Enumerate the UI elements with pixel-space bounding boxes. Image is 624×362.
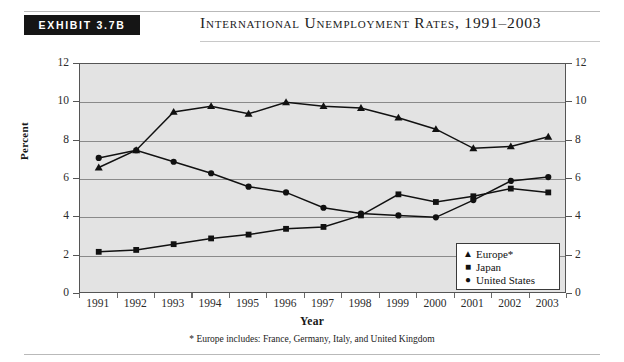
y-tick-label-left-4: 4: [47, 209, 69, 221]
data-point: [283, 189, 289, 195]
data-point: [96, 155, 102, 161]
legend-item-europe: ▲ Europe*: [462, 247, 554, 260]
exhibit-title: International Unemployment Rates, 1991–2…: [200, 14, 541, 32]
x-tick-mark-1997: [304, 293, 305, 298]
x-tick-mark-1992: [117, 293, 118, 298]
y-tick-label-right-10: 10: [575, 94, 597, 106]
data-point: [320, 205, 326, 211]
y-tick-label-left-2: 2: [47, 248, 69, 260]
x-tick-label-1995: 1995: [228, 297, 268, 309]
x-tick-label-1999: 1999: [377, 297, 417, 309]
data-point: [433, 199, 439, 205]
y-tick-label-right-6: 6: [575, 171, 597, 183]
y-tick-label-left-8: 8: [47, 133, 69, 145]
y-tick-label-right-4: 4: [575, 209, 597, 221]
data-point: [171, 159, 177, 165]
y-tick-mark-right-2: [566, 255, 572, 256]
circle-marker-icon: ●: [462, 275, 474, 285]
series-line: [99, 102, 549, 167]
y-tick-mark-left-6: [73, 178, 79, 179]
y-tick-label-left-12: 12: [47, 56, 69, 68]
x-tick-label-1991: 1991: [78, 297, 118, 309]
y-tick-mark-left-8: [73, 140, 79, 141]
chart-footnote: * Europe includes: France, Germany, Ital…: [0, 334, 624, 344]
x-tick-mark-2000: [416, 293, 417, 298]
data-point: [545, 174, 551, 180]
data-point: [246, 232, 252, 238]
data-point: [358, 210, 364, 216]
exhibit-number-badge: Exhibit 3.7B: [24, 15, 140, 35]
triangle-marker-icon: ▲: [462, 249, 474, 259]
y-tick-label-left-0: 0: [47, 286, 69, 298]
data-point: [508, 178, 514, 184]
data-point: [508, 186, 514, 192]
data-point: [245, 184, 251, 190]
data-point: [208, 236, 214, 242]
data-point: [133, 147, 139, 153]
x-tick-mark-2003: [529, 293, 530, 298]
y-axis-title: Percent: [18, 122, 30, 160]
data-point: [321, 224, 327, 230]
x-tick-label-1994: 1994: [190, 297, 230, 309]
series-unitedstates: [96, 147, 552, 220]
x-tick-label-2003: 2003: [527, 297, 567, 309]
x-tick-mark-1996: [266, 293, 267, 298]
legend-item-japan: ■ Japan: [462, 260, 554, 273]
x-tick-label-1997: 1997: [303, 297, 343, 309]
x-tick-label-1998: 1998: [340, 297, 380, 309]
legend-item-united-states: ● United States: [462, 273, 554, 286]
data-point: [433, 214, 439, 220]
y-tick-mark-right-12: [566, 63, 572, 64]
footer-divider: [24, 354, 600, 355]
x-tick-mark-end: [566, 293, 567, 298]
x-tick-mark-1991: [79, 293, 80, 298]
data-point: [283, 226, 289, 232]
y-tick-mark-left-12: [73, 63, 79, 64]
x-tick-mark-2001: [454, 293, 455, 298]
legend-label-united-states: United States: [476, 274, 535, 286]
data-point: [171, 241, 177, 247]
series-europe: [95, 98, 553, 170]
data-point: [133, 247, 139, 253]
data-point: [544, 133, 552, 140]
data-point: [470, 197, 476, 203]
header-bottom-divider: [200, 41, 600, 42]
legend-label-europe: Europe*: [476, 248, 513, 260]
y-tick-mark-left-4: [73, 216, 79, 217]
x-tick-mark-1993: [154, 293, 155, 298]
x-tick-label-2000: 2000: [415, 297, 455, 309]
x-tick-mark-2002: [491, 293, 492, 298]
x-tick-mark-1994: [191, 293, 192, 298]
exhibit-header: Exhibit 3.7B International Unemployment …: [0, 0, 624, 44]
y-tick-label-right-8: 8: [575, 133, 597, 145]
x-tick-label-1993: 1993: [153, 297, 193, 309]
data-point: [208, 170, 214, 176]
x-tick-mark-1998: [341, 293, 342, 298]
data-point: [207, 102, 215, 109]
y-tick-label-right-2: 2: [575, 248, 597, 260]
data-point: [282, 98, 290, 105]
data-point: [96, 249, 102, 255]
y-tick-label-right-12: 12: [575, 56, 597, 68]
x-tick-mark-1995: [229, 293, 230, 298]
data-point: [545, 190, 551, 196]
y-tick-mark-right-4: [566, 216, 572, 217]
y-tick-label-left-6: 6: [47, 171, 69, 183]
y-tick-mark-left-2: [73, 255, 79, 256]
x-tick-label-2002: 2002: [490, 297, 530, 309]
x-tick-label-1992: 1992: [115, 297, 155, 309]
y-tick-mark-right-8: [566, 140, 572, 141]
header-top-divider: [24, 11, 600, 12]
data-point: [395, 212, 401, 218]
y-tick-mark-right-10: [566, 101, 572, 102]
square-marker-icon: ■: [462, 262, 474, 272]
x-axis-title: Year: [0, 315, 624, 327]
legend-label-japan: Japan: [476, 261, 501, 273]
y-tick-label-left-10: 10: [47, 94, 69, 106]
x-tick-mark-1999: [379, 293, 380, 298]
x-tick-label-2001: 2001: [452, 297, 492, 309]
y-tick-mark-right-6: [566, 178, 572, 179]
y-tick-mark-left-10: [73, 101, 79, 102]
y-tick-label-right-0: 0: [575, 286, 597, 298]
x-tick-label-1996: 1996: [265, 297, 305, 309]
